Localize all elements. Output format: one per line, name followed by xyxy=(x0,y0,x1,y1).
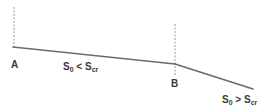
slope-ref-symbol: S xyxy=(85,61,92,72)
slope-relation: > xyxy=(233,94,244,105)
slope-ref-subscript: cr xyxy=(92,66,99,73)
slope-relation: < xyxy=(74,61,85,72)
slope-ref-subscript: cr xyxy=(251,99,258,106)
point-label-b: B xyxy=(171,79,178,89)
steep-slope-label: S0 > Scr xyxy=(222,95,257,106)
slope-ref-symbol: S xyxy=(244,94,251,105)
steep-slope-bed-line xyxy=(175,64,253,89)
mild-slope-label: S0 < Scr xyxy=(63,62,98,73)
slope-main-symbol: S xyxy=(63,61,70,72)
point-label-a: A xyxy=(11,60,18,70)
slope-main-symbol: S xyxy=(222,94,229,105)
